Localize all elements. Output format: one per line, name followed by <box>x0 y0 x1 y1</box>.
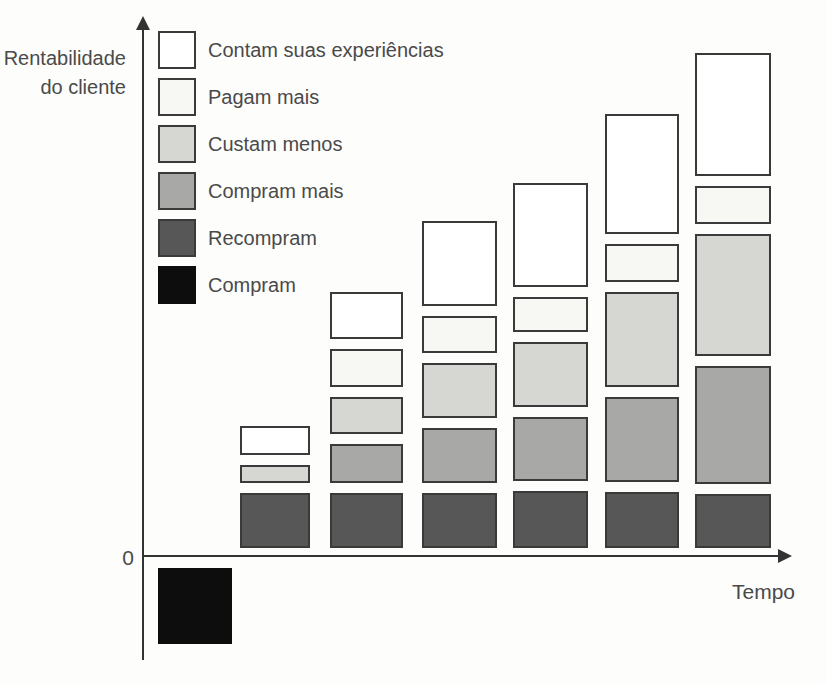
legend-item: Recompram <box>158 218 317 258</box>
bar-segment <box>330 444 403 483</box>
arrow-right-icon <box>778 549 792 563</box>
bar-segment <box>240 465 310 483</box>
legend-label: Compram mais <box>208 180 344 203</box>
bar-segment <box>240 493 310 548</box>
legend-label: Contam suas experiências <box>208 39 444 62</box>
bar-segment <box>330 493 403 548</box>
legend-item: Compram <box>158 265 296 305</box>
legend-swatch-medium-gray <box>158 172 196 210</box>
x-axis <box>142 555 780 557</box>
bar-segment <box>605 244 679 282</box>
origin-zero-label: 0 <box>100 546 134 570</box>
bar-segment <box>605 397 679 482</box>
bar-segment <box>422 493 497 548</box>
legend-swatch-black <box>158 266 196 304</box>
bar-segment <box>695 186 771 224</box>
y-axis-label-line1: Rentabilidade <box>0 44 126 73</box>
bar-segment <box>695 366 771 484</box>
y-axis-label: Rentabilidade do cliente <box>0 44 126 102</box>
bar-segment <box>513 342 588 407</box>
bar-segment <box>422 363 497 418</box>
bar-segment <box>330 349 403 387</box>
legend-label: Pagam mais <box>208 86 319 109</box>
bar-segment <box>422 428 497 483</box>
bar-segment <box>605 292 679 387</box>
legend-swatch-dark-gray <box>158 219 196 257</box>
bar-segment <box>695 234 771 356</box>
bar-segment <box>605 492 679 548</box>
bar-segment <box>330 292 403 339</box>
legend-item: Pagam mais <box>158 77 319 117</box>
bar-segment <box>513 297 588 332</box>
bar-segment <box>422 221 497 306</box>
bar-segment <box>605 114 679 234</box>
bar-segment <box>695 494 771 548</box>
legend-swatch-off-white <box>158 78 196 116</box>
y-axis <box>142 28 144 660</box>
bar-segment <box>695 53 771 176</box>
bar-segment <box>240 426 310 455</box>
legend-swatch-light-gray <box>158 125 196 163</box>
legend-swatch-white <box>158 31 196 69</box>
legend-label: Recompram <box>208 227 317 250</box>
bar-segment <box>513 417 588 481</box>
legend-item: Custam menos <box>158 124 343 164</box>
legend-label: Compram <box>208 274 296 297</box>
legend-item: Contam suas experiências <box>158 30 444 70</box>
bar-segment <box>158 568 232 644</box>
bar-segment <box>422 316 497 353</box>
legend-item: Compram mais <box>158 171 344 211</box>
chart-canvas: Rentabilidade do cliente 0 Tempo Contam … <box>0 0 827 684</box>
y-axis-label-line2: do cliente <box>0 73 126 102</box>
bar-segment <box>513 183 588 287</box>
x-axis-label: Tempo <box>675 580 795 604</box>
bar-segment <box>513 491 588 548</box>
legend-label: Custam menos <box>208 133 343 156</box>
bar-segment <box>330 397 403 434</box>
arrow-up-icon <box>136 16 150 30</box>
